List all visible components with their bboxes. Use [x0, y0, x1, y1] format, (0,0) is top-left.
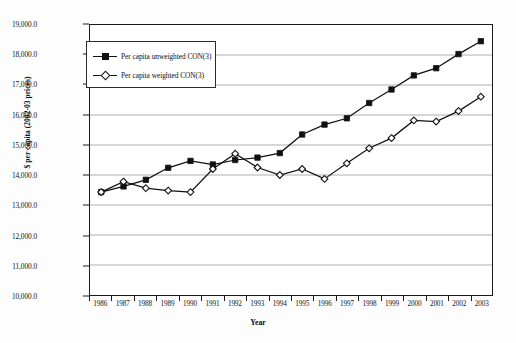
x-tick-label: 1996 [318, 300, 332, 308]
x-tick-label: 1989 [161, 300, 175, 308]
x-tick-label: 1994 [273, 300, 287, 308]
x-tick-label: 2002 [452, 300, 466, 308]
x-tick-label: 1990 [183, 300, 197, 308]
x-tick-label: 1999 [385, 300, 399, 308]
x-tick-mark [201, 296, 202, 301]
x-tick-mark [156, 296, 157, 301]
x-tick-label: 1995 [295, 300, 309, 308]
x-tick-mark [246, 296, 247, 301]
x-tick-label: 2003 [475, 300, 489, 308]
legend-item-unweighted: Per capita unweighted CON(3) [93, 49, 211, 63]
x-tick-label: 1991 [205, 300, 219, 308]
x-tick-label: 1993 [250, 300, 264, 308]
x-tick-label: 2001 [430, 300, 444, 308]
legend-label-unweighted: Per capita unweighted CON(3) [121, 52, 211, 61]
x-tick-mark [224, 296, 225, 301]
x-tick-mark [471, 296, 472, 301]
legend-item-weighted: Per capita weighted CON(3) [93, 68, 204, 82]
x-tick-mark [269, 296, 270, 301]
legend-label-weighted: Per capita weighted CON(3) [121, 71, 204, 80]
chart-legend: Per capita unweighted CON(3) Per capita … [86, 41, 216, 88]
x-tick-label: 2000 [407, 300, 421, 308]
x-tick-mark [358, 296, 359, 301]
x-tick-mark [403, 296, 404, 301]
x-tick-label: 1988 [138, 300, 152, 308]
x-tick-mark [89, 296, 90, 301]
x-tick-label: 1986 [93, 300, 107, 308]
filled-square-marker-icon [93, 51, 117, 61]
chart-figure: 19,000.018,000.017,000.016,000.015,000.0… [0, 0, 516, 343]
x-tick-mark [111, 296, 112, 301]
x-tick-label: 1987 [116, 300, 130, 308]
x-tick-mark [313, 296, 314, 301]
x-tick-mark [381, 296, 382, 301]
x-tick-mark [134, 296, 135, 301]
x-tick-mark [426, 296, 427, 301]
x-tick-label: 1992 [228, 300, 242, 308]
x-tick-label: 1997 [340, 300, 354, 308]
x-axis: 1986198719881989199019911992199319941995… [0, 0, 516, 343]
x-axis-title: Year [0, 318, 516, 327]
x-tick-mark [291, 296, 292, 301]
x-tick-mark [179, 296, 180, 301]
x-tick-label: 1998 [363, 300, 377, 308]
x-tick-mark [448, 296, 449, 301]
x-tick-mark [336, 296, 337, 301]
open-diamond-marker-icon [93, 70, 117, 80]
